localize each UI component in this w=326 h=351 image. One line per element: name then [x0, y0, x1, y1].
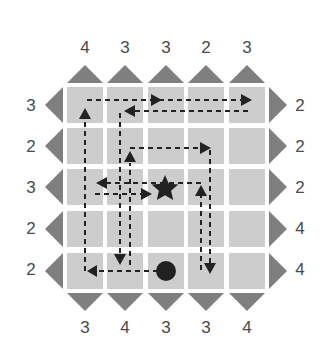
arrow-down-icon: [204, 263, 216, 274]
bottom-triangle-icon: [67, 293, 103, 311]
top-triangle-icon: [67, 65, 103, 83]
arrow-up-icon: [79, 108, 91, 119]
left-triangle-icon: [45, 128, 63, 164]
left-triangle-icon: [45, 253, 63, 289]
bottom-triangle-icon: [148, 293, 184, 311]
arrow-down-icon: [114, 254, 126, 265]
arrow-left-icon: [124, 105, 135, 117]
bottom-triangle-icon: [188, 293, 224, 311]
arrow-right-icon: [141, 188, 152, 200]
top-triangle-icon: [107, 65, 143, 83]
goal-star-icon: [152, 175, 179, 200]
board-overlay: [0, 0, 326, 351]
left-triangle-icon: [45, 211, 63, 247]
arrow-right-icon: [151, 94, 162, 106]
right-triangle-icon: [269, 253, 287, 289]
arrow-left-icon: [87, 265, 97, 277]
bottom-triangle-icon: [229, 293, 265, 311]
right-triangle-icon: [269, 169, 287, 205]
arrow-left-icon: [96, 177, 107, 189]
right-triangle-icon: [269, 211, 287, 247]
arrow-up-icon: [124, 151, 136, 162]
right-triangle-icon: [269, 87, 287, 123]
top-triangle-icon: [148, 65, 184, 83]
left-triangle-icon: [45, 169, 63, 205]
arrow-right-icon: [241, 94, 252, 106]
top-triangle-icon: [188, 65, 224, 83]
top-triangle-icon: [229, 65, 265, 83]
right-triangle-icon: [269, 128, 287, 164]
bottom-triangle-icon: [107, 293, 143, 311]
arrow-up-icon: [195, 185, 207, 196]
start-circle-icon: [156, 261, 176, 281]
puzzle-board: 4 3 3 2 3 3 4 3 3 4 3 2 3 2 2 2 2 2 4 4: [0, 0, 326, 351]
left-triangle-icon: [45, 87, 63, 123]
